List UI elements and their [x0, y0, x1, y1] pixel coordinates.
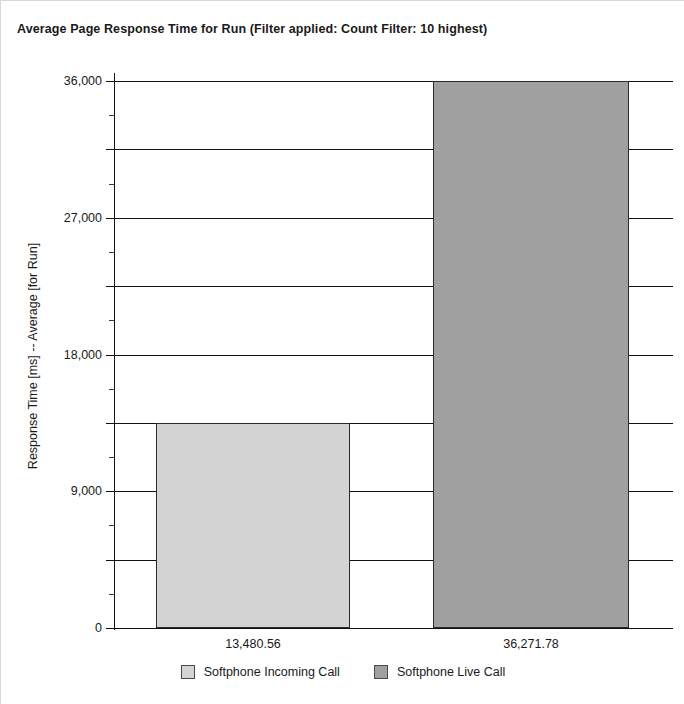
plot-area	[114, 81, 673, 628]
chart-canvas: Average Page Response Time for Run (Filt…	[0, 0, 684, 704]
y-axis-tick-label: 36,000	[64, 74, 102, 88]
y-axis-tick-label: 0	[95, 621, 102, 635]
y-axis-labels: 09,00018,00027,00036,000	[1, 1, 102, 704]
y-axis-tick-major	[106, 149, 114, 150]
legend-label: Softphone Live Call	[397, 665, 505, 679]
y-axis-tick-major	[106, 628, 114, 629]
legend-swatch-icon	[181, 665, 195, 679]
y-axis-tick-minor	[109, 252, 114, 253]
bar[interactable]	[433, 81, 629, 628]
y-axis-tick-major	[106, 560, 114, 561]
y-axis-tick-minor	[109, 457, 114, 458]
y-axis-tick-minor	[109, 115, 114, 116]
legend-label: Softphone Incoming Call	[204, 665, 340, 679]
legend-item[interactable]: Softphone Incoming Call	[181, 665, 340, 679]
x-axis-value-label: 36,271.78	[433, 637, 629, 651]
y-axis-tick-major	[106, 355, 114, 356]
x-axis-value-label: 13,480.56	[156, 637, 350, 651]
y-axis-tick-label: 18,000	[64, 348, 102, 362]
y-axis-tick-major	[106, 218, 114, 219]
y-axis-tick-label: 27,000	[64, 211, 102, 225]
y-axis-tick-major	[106, 286, 114, 287]
y-axis-tick-minor	[109, 525, 114, 526]
y-axis-tick-major	[106, 81, 114, 82]
legend-item[interactable]: Softphone Live Call	[374, 665, 505, 679]
y-axis-tick-label: 9,000	[71, 484, 102, 498]
y-axis-tick-minor	[109, 320, 114, 321]
y-axis-tick-minor	[109, 594, 114, 595]
y-axis-tick-minor	[109, 184, 114, 185]
y-axis-tick-major	[106, 491, 114, 492]
chart-legend: Softphone Incoming CallSoftphone Live Ca…	[1, 665, 684, 679]
y-axis-tick-major	[106, 423, 114, 424]
bar[interactable]	[156, 423, 350, 628]
y-axis-tick-minor	[109, 389, 114, 390]
legend-swatch-icon	[374, 665, 388, 679]
y-axis-title: Response Time [ms] -- Average [for Run]	[26, 116, 40, 596]
x-axis-line	[114, 628, 673, 629]
